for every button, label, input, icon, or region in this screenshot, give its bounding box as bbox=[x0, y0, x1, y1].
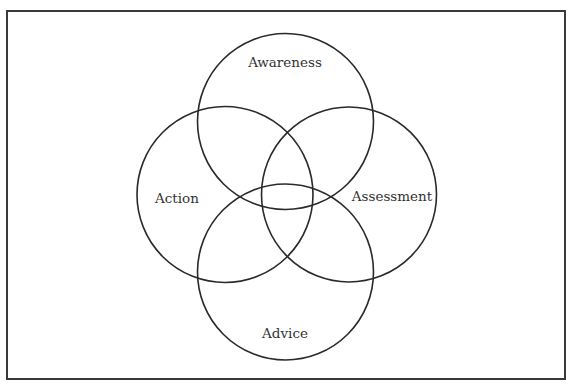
label-advice: Advice bbox=[261, 325, 308, 341]
label-assessment: Assessment bbox=[351, 188, 433, 204]
venn-diagram: Awareness Action Assessment Advice bbox=[0, 0, 573, 385]
label-awareness: Awareness bbox=[247, 54, 322, 70]
label-action: Action bbox=[154, 190, 199, 206]
circle-group-awareness: Awareness bbox=[198, 34, 374, 210]
circle-group-advice: Advice bbox=[198, 184, 374, 360]
